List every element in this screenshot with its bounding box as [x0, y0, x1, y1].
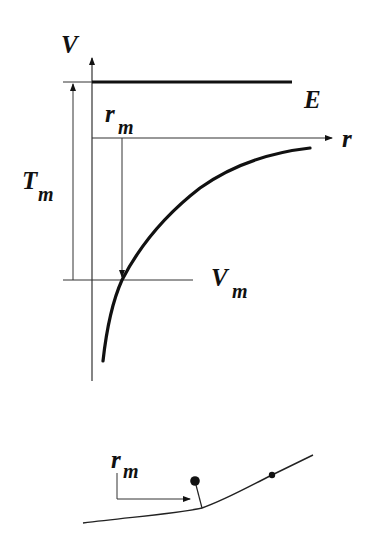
v-axis-label: V — [61, 31, 80, 58]
svg-text:m: m — [123, 460, 139, 482]
svg-text:T: T — [22, 167, 39, 194]
svg-text:r: r — [105, 100, 115, 127]
svg-text:V: V — [211, 264, 230, 291]
bottom-rm-label: r m — [111, 446, 139, 482]
vm-label: V m — [211, 264, 248, 302]
closest-approach-stick — [196, 485, 202, 508]
svg-text:m: m — [38, 183, 54, 205]
top-plot: V r E r m T m V m — [22, 31, 352, 381]
moving-particle-dot — [269, 472, 275, 478]
potential-energy-diagram: V r E r m T m V m r m — [0, 0, 372, 546]
trajectory-sketch: r m — [83, 446, 313, 523]
svg-text:m: m — [232, 280, 248, 302]
svg-text:r: r — [111, 446, 121, 473]
rm-label: r m — [105, 100, 134, 138]
tm-label: T m — [22, 167, 54, 205]
svg-text:m: m — [118, 116, 134, 138]
energy-label: E — [303, 86, 321, 113]
r-axis-label: r — [342, 125, 352, 152]
target-ball — [190, 476, 200, 486]
potential-curve — [103, 148, 310, 361]
